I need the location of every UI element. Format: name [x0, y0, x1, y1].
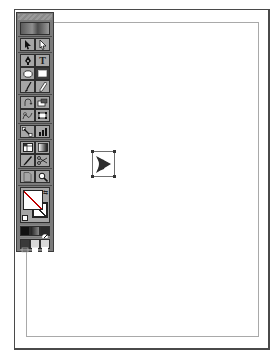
divider: [18, 139, 52, 140]
rectangle-tool-button[interactable]: [35, 67, 50, 80]
artboard-margin-guide: [26, 22, 259, 337]
direct-selection-tool-button[interactable]: [35, 38, 50, 51]
pen-tool-button[interactable]: [20, 54, 35, 67]
magnifier-icon: [38, 172, 48, 182]
selection-handle-tl[interactable]: [91, 150, 94, 153]
symbol-sprayer-icon: [22, 127, 33, 137]
eyedropper-tool-button[interactable]: [20, 154, 35, 167]
none-mode-button[interactable]: [40, 226, 50, 236]
paintbrush-tool-button[interactable]: [20, 80, 35, 93]
screen-mode-icon: [21, 246, 29, 254]
toolbox-panel: T: [16, 12, 54, 252]
scissors-icon: [37, 156, 48, 165]
divider: [18, 168, 52, 169]
free-transform-icon: [37, 111, 48, 120]
bar-graph-icon: [38, 127, 48, 136]
default-fill-stroke-icon[interactable]: [22, 215, 28, 221]
gradient-icon: [38, 143, 48, 152]
ellipse-tool-button[interactable]: [20, 67, 35, 80]
page-hand-icon: [23, 172, 32, 182]
fill-swatch[interactable]: [23, 190, 43, 210]
black-arrow-icon: [24, 40, 32, 50]
rotate-icon: [23, 98, 33, 107]
selection-tool-button[interactable]: [20, 38, 35, 51]
scale-icon: [37, 98, 48, 107]
divider: [18, 36, 52, 37]
screen-white-icon: [41, 246, 49, 254]
white-arrow-icon: [39, 40, 47, 50]
color-mode-button[interactable]: [20, 226, 30, 236]
gradient-tool-button[interactable]: [35, 141, 50, 154]
screen-white-icon: [31, 246, 39, 254]
screen-mode-row: [20, 238, 50, 250]
full-screen-mode-button[interactable]: [40, 239, 50, 249]
graph-tool-button[interactable]: [35, 125, 50, 138]
ellipse-icon: [23, 70, 33, 78]
divider: [18, 94, 52, 95]
warp-tool-button[interactable]: [20, 109, 35, 122]
rotate-tool-button[interactable]: [20, 96, 35, 109]
divider: [18, 123, 52, 124]
fill-stroke-swatches: ⇆: [20, 187, 50, 223]
symbol-sprayer-tool-button[interactable]: [20, 125, 35, 138]
selection-handle-tr[interactable]: [113, 150, 116, 153]
pen-nib-icon: [24, 56, 32, 66]
color-mode-row: [20, 225, 50, 237]
scissors-tool-button[interactable]: [35, 154, 50, 167]
scale-tool-button[interactable]: [35, 96, 50, 109]
standard-screen-mode-button[interactable]: [20, 239, 30, 249]
free-transform-tool-button[interactable]: [35, 109, 50, 122]
pencil-tool-button[interactable]: [35, 80, 50, 93]
selection-handle-bl[interactable]: [91, 175, 94, 178]
warp-icon: [22, 111, 33, 120]
pencil-icon: [39, 82, 47, 92]
eyedropper-icon: [23, 156, 32, 166]
divider: [18, 52, 52, 53]
type-tool-button[interactable]: T: [35, 54, 50, 67]
toolbox-title-bar[interactable]: [18, 14, 52, 20]
selection-handle-br[interactable]: [113, 175, 116, 178]
type-t-icon: T: [39, 56, 46, 66]
arrow-shape-icon: [93, 152, 114, 176]
gradient-mode-button[interactable]: [30, 226, 40, 236]
mesh-tool-button[interactable]: [20, 141, 35, 154]
selected-object[interactable]: [92, 151, 115, 177]
rectangle-icon: [38, 70, 47, 77]
paintbrush-icon: [24, 82, 32, 92]
hand-tool-button[interactable]: [20, 170, 35, 183]
swap-fill-stroke-icon[interactable]: ⇆: [43, 189, 48, 196]
app-logo[interactable]: [20, 22, 50, 35]
mesh-icon: [23, 143, 33, 152]
zoom-tool-button[interactable]: [35, 170, 50, 183]
full-screen-menu-mode-button[interactable]: [30, 239, 40, 249]
divider: [18, 185, 52, 186]
